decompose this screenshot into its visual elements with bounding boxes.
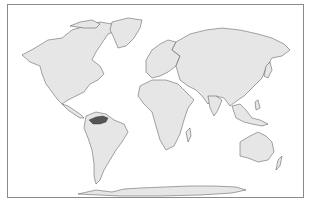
greenland (110, 18, 142, 48)
india (208, 96, 222, 116)
north-america (22, 22, 118, 104)
canadian-arctic (70, 20, 100, 28)
southeast-asia (232, 104, 268, 126)
africa (138, 80, 194, 150)
central-america (62, 104, 84, 118)
new-zealand (276, 156, 282, 170)
asia (172, 28, 290, 106)
south-america (84, 112, 128, 184)
philippines (255, 100, 260, 110)
madagascar (186, 128, 191, 142)
world-map (0, 0, 309, 206)
australia (240, 132, 274, 162)
antarctica (78, 186, 246, 196)
